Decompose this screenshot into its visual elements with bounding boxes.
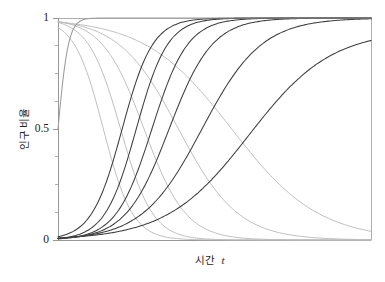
- x-axis-title: 시간 t: [195, 254, 226, 266]
- y-tick-label: 0: [43, 233, 49, 245]
- logistic-curves-chart: 00.51 시간 t 인구 비율: [0, 0, 385, 282]
- figure-caption-strip: [0, 276, 385, 282]
- y-axis-title: 인구 비율: [18, 108, 30, 151]
- curve-falling-3: [58, 22, 371, 240]
- curve-rising-1: [58, 18, 371, 237]
- y-axis-tick-labels: 00.51: [35, 11, 50, 245]
- y-axis-ticks: [53, 18, 58, 240]
- y-tick-label: 0.5: [35, 122, 50, 134]
- y-tick-label: 1: [43, 11, 49, 23]
- curve-falling-4: [58, 22, 371, 240]
- curve-ceiling: [58, 18, 371, 129]
- curve-rising-2: [58, 18, 371, 239]
- curve-rising-3: [58, 18, 371, 239]
- curve-falling-2: [58, 22, 371, 240]
- curve-rising-4: [58, 18, 371, 239]
- curve-series-group: [58, 18, 371, 240]
- x-axis-title-text: 시간: [195, 254, 215, 266]
- chart-figure: 00.51 시간 t 인구 비율: [0, 0, 385, 282]
- x-axis-title-symbol: t: [221, 254, 225, 266]
- curve-rising-6: [58, 41, 371, 238]
- curve-falling-5: [58, 22, 371, 231]
- plot-frame: [58, 18, 371, 240]
- curve-rising-5: [58, 19, 371, 238]
